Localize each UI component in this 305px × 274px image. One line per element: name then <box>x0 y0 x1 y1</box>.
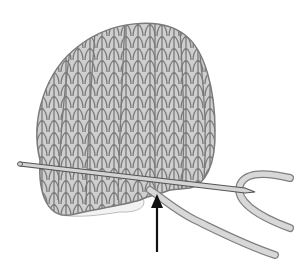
knitting-illustration <box>0 0 305 274</box>
hat <box>37 20 215 216</box>
